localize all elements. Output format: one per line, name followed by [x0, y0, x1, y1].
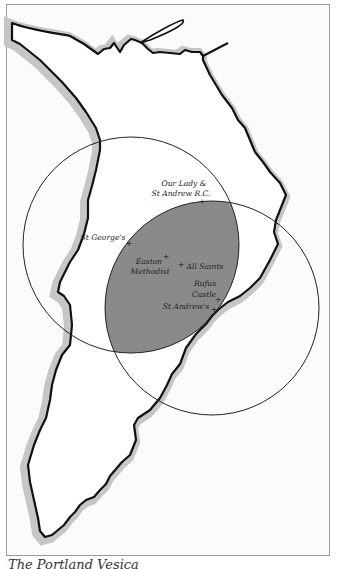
north-inlet	[140, 20, 183, 43]
breakwater	[203, 43, 228, 56]
svg-text:Castle: Castle	[192, 290, 217, 299]
svg-text:St Andrew R.C.: St Andrew R.C.	[151, 189, 210, 198]
svg-text:All Saints: All Saints	[186, 262, 224, 271]
svg-text:Our Lady &: Our Lady &	[161, 179, 206, 188]
portland-map: + Our Lady & St Andrew R.C. + St George'…	[0, 0, 338, 569]
cross-icon: +	[199, 197, 206, 206]
svg-text:Rufus: Rufus	[193, 279, 216, 288]
cross-icon: +	[178, 260, 185, 269]
map-caption: The Portland Vesica	[8, 558, 139, 569]
svg-text:Methodist: Methodist	[129, 267, 170, 276]
cross-icon: +	[211, 305, 218, 314]
svg-text:St George's: St George's	[81, 233, 126, 242]
svg-text:Easton: Easton	[135, 257, 163, 266]
svg-text:St Andrew's: St Andrew's	[163, 302, 210, 311]
cross-icon: +	[163, 252, 170, 261]
cross-icon: +	[126, 239, 133, 248]
